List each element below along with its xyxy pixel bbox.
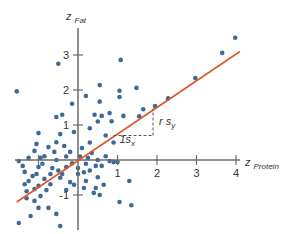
data-point	[72, 183, 77, 188]
data-point	[118, 58, 123, 63]
data-point	[127, 179, 132, 184]
data-point	[32, 149, 37, 154]
data-point	[99, 164, 104, 169]
data-point	[117, 95, 122, 100]
data-point	[22, 170, 27, 175]
data-point	[34, 142, 39, 147]
data-point	[84, 162, 89, 167]
data-point	[84, 94, 89, 99]
y-axis: -1123 zFat	[59, 10, 87, 230]
data-point	[48, 182, 53, 187]
data-point	[134, 86, 139, 91]
x-tick-label: 1	[114, 167, 120, 179]
data-point	[117, 200, 122, 205]
data-point	[40, 162, 45, 167]
data-point	[88, 126, 93, 131]
scatter-chart: 1234 zProtein -1123 zFat 1sx r sy	[0, 0, 286, 234]
y-tick-label: 3	[63, 49, 69, 61]
data-point	[44, 188, 49, 193]
data-point	[62, 144, 67, 149]
data-point	[46, 145, 51, 150]
x-axis-label: zProtein	[244, 156, 279, 171]
data-point	[54, 115, 59, 120]
data-point	[99, 114, 104, 119]
data-point	[48, 172, 53, 177]
data-point	[121, 114, 126, 119]
data-point	[82, 186, 87, 191]
data-point	[36, 206, 41, 211]
data-point	[68, 180, 73, 185]
data-point	[60, 113, 65, 118]
data-point	[17, 221, 22, 226]
rise-annotation: r sy	[159, 115, 176, 130]
data-point	[30, 174, 35, 179]
data-point	[97, 83, 102, 88]
y-tick-label: 1	[63, 119, 69, 131]
data-point	[54, 212, 59, 217]
data-point	[88, 140, 93, 145]
data-point	[97, 99, 102, 104]
y-tick-label: -1	[59, 189, 69, 201]
data-point	[58, 224, 63, 229]
data-point	[96, 175, 101, 180]
data-point	[36, 165, 41, 170]
data-point	[94, 186, 99, 191]
data-point	[52, 150, 57, 155]
data-point	[101, 183, 106, 188]
data-point	[117, 88, 122, 93]
y-tick-label: 2	[63, 84, 69, 96]
data-point	[220, 51, 225, 56]
data-point	[50, 166, 55, 171]
data-point	[68, 150, 73, 155]
data-point	[70, 101, 75, 106]
data-point	[107, 111, 112, 116]
data-point	[80, 146, 85, 151]
data-point	[38, 194, 43, 199]
data-point	[72, 130, 77, 135]
data-point	[46, 206, 51, 211]
data-point	[103, 154, 108, 159]
data-point	[129, 203, 134, 208]
data-point	[14, 89, 19, 94]
data-point	[58, 132, 63, 137]
x-tick-label: 4	[233, 167, 239, 179]
data-point	[56, 62, 61, 67]
data-point	[36, 131, 41, 136]
x-tick-label: 3	[193, 167, 199, 179]
slope-triangle	[114, 109, 154, 136]
data-point	[54, 140, 59, 145]
data-point	[94, 164, 99, 169]
data-point	[22, 182, 27, 187]
data-point	[28, 214, 33, 219]
data-point	[141, 107, 146, 112]
y-axis-label: zFat	[65, 10, 87, 25]
data-point	[84, 179, 89, 184]
data-point	[34, 172, 39, 177]
data-point	[109, 119, 114, 124]
y-axis-ticks: -1123	[59, 49, 83, 201]
data-point	[92, 191, 97, 196]
data-point	[111, 140, 116, 145]
data-point	[88, 168, 93, 173]
data-point	[26, 179, 31, 184]
data-point	[82, 170, 87, 175]
data-point	[97, 193, 102, 198]
data-point	[24, 189, 29, 194]
data-point	[32, 199, 37, 204]
data-point	[103, 133, 108, 138]
data-point	[20, 164, 25, 169]
data-point	[42, 177, 47, 182]
data-point	[233, 36, 238, 41]
data-point	[64, 154, 69, 159]
x-tick-label: 2	[154, 167, 160, 179]
data-point	[92, 113, 97, 118]
data-point	[96, 119, 101, 124]
